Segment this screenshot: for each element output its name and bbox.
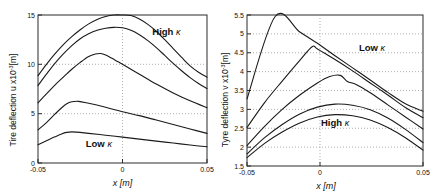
y-ticks-left: 0 5 10 15: [27, 12, 42, 167]
annotation-label: Low κ: [359, 42, 386, 53]
y-tick-label: 3: [240, 106, 244, 113]
x-ticks-right: -0.05 0 0.05: [239, 162, 430, 176]
chart-left-svg: Tire deflection u x10-3[m] 0 5 10 15: [0, 0, 216, 193]
annotation-label: High κ: [321, 117, 350, 128]
annotations-left: High κLow κ: [86, 26, 181, 149]
x-tick-label: 0: [121, 166, 125, 173]
y-axis-title-right: Tyre deflection v x10-3[m]: [220, 53, 230, 148]
x-tick-label: -0.05: [30, 166, 46, 173]
plot-frame-left: [38, 15, 207, 163]
y-axis-title-left: Tire deflection u x10-3[m]: [8, 54, 18, 147]
chart-right-svg: Tyre deflection v x10-3[m] 1.522.533.544…: [216, 0, 433, 193]
figure-container: Tire deflection u x10-3[m] 0 5 10 15: [0, 0, 433, 193]
x-tick-label: -0.05: [239, 169, 255, 176]
y-tick-label: 2: [240, 144, 244, 151]
series-curve-2: [247, 46, 423, 128]
y-tick-label: 5.5: [234, 12, 244, 19]
series-curve-3: [247, 75, 423, 146]
gridlines-left: [38, 15, 207, 163]
y-tick-label: 15: [27, 12, 35, 19]
annotation-label: High κ: [152, 26, 181, 37]
annotation-label: Low κ: [86, 138, 113, 149]
chart-panel-right: Tyre deflection v x10-3[m] 1.522.533.544…: [216, 0, 433, 193]
svg-text:Tyre deflection v x10-3[m]: Tyre deflection v x10-3[m]: [220, 53, 230, 148]
y-tick-label: 4.5: [234, 49, 244, 56]
y-tick-label: 2.5: [234, 125, 244, 132]
y-tick-label: 5: [31, 110, 35, 117]
y-tick-label: 10: [27, 61, 35, 68]
y-tick-label: 3.5: [234, 87, 244, 94]
svg-text:Tire deflection u x10-3[m]: Tire deflection u x10-3[m]: [8, 54, 18, 147]
x-tick-label: 0.05: [200, 166, 214, 173]
x-axis-title-left: x [m]: [112, 178, 133, 188]
y-tick-label: 4: [240, 68, 244, 75]
x-ticks-left: -0.05 0 0.05: [30, 159, 214, 173]
x-tick-label: 0: [318, 169, 322, 176]
series-curve-1-low-kappa: [247, 13, 423, 111]
y-tick-label: 5: [240, 30, 244, 37]
gridlines-right: [247, 15, 423, 166]
chart-panel-left: Tire deflection u x10-3[m] 0 5 10 15: [0, 0, 216, 193]
x-axis-title-right: x [m]: [315, 181, 336, 191]
x-tick-label: 0.05: [416, 169, 430, 176]
curves-group-right: [247, 13, 423, 157]
y-ticks-right: 1.522.533.544.555.5: [234, 12, 251, 170]
